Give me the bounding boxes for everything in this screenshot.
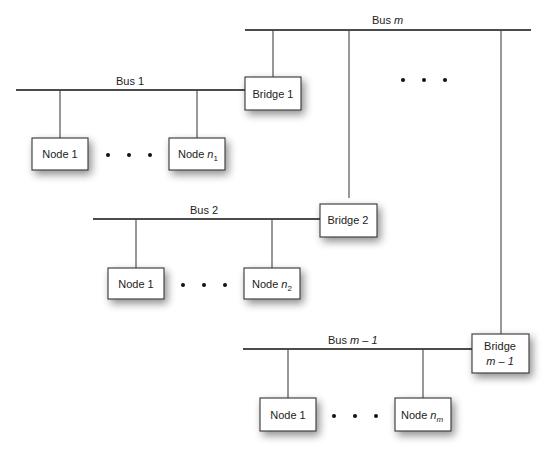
svg-text:m – 1: m – 1	[486, 355, 514, 367]
node-1-label: Node 1	[42, 148, 77, 160]
bridge-2: Bridge 2	[320, 204, 377, 237]
bus-m-1: Bus m – 1	[243, 334, 472, 398]
bridge-m-1: Bridge m – 1	[472, 334, 529, 373]
bus-2: Bus 2	[93, 204, 320, 268]
node-group-bus-2: Node 1 Node n2	[108, 268, 300, 299]
svg-text:Bridge: Bridge	[484, 340, 516, 352]
bus-m-1-label: Bus m – 1	[328, 334, 378, 346]
bridge-1: Bridge 1	[245, 77, 301, 110]
node-group-bus-m-1: Node 1 Node nm	[260, 398, 451, 431]
bus-2-label: Bus 2	[190, 204, 218, 216]
node-group-bus-1: Node 1 Node n1	[32, 138, 225, 170]
svg-text:Bridge 2: Bridge 2	[328, 214, 369, 226]
node-1-label: Node 1	[118, 278, 153, 290]
bus-m-label: Bus m	[372, 14, 403, 26]
node-1-label: Node 1	[270, 409, 305, 421]
bus-1-label: Bus 1	[116, 75, 144, 87]
network-diagram: Bus m Bus 1 Bridge 1 Node 1 Node n1 Bus …	[0, 0, 553, 455]
svg-text:Bridge 1: Bridge 1	[253, 88, 294, 100]
ellipsis-bus-m	[401, 78, 447, 82]
bus-1: Bus 1	[16, 75, 246, 138]
